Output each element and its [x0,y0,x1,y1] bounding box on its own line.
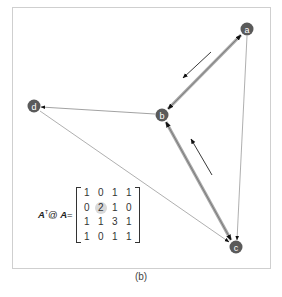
matrix-equation: AT@ A= 1 0 1 1 0 2 1 0 1 1 3 1 1 0 1 1 [38,184,140,246]
edge-a-c [237,36,247,240]
node-c[interactable]: c [230,241,243,254]
node-a-label: a [244,25,249,35]
matrix-cell-highlighted: 2 [94,201,108,216]
node-d[interactable]: d [28,100,41,113]
formula-eq: = [67,210,73,221]
formula-a: A [38,210,45,221]
flow-arrow-c-to-b [191,139,212,175]
matrix-cell: 1 [122,215,136,230]
matrix-cell: 1 [122,186,136,201]
matrix-cell: 1 [80,215,94,230]
edge-b-d [41,107,155,114]
matrix-cell: 1 [122,230,136,245]
node-c-label: c [234,243,239,253]
edge-b-c [166,122,231,240]
matrix-cell: 0 [94,230,108,245]
matrix-cell: 1 [80,230,94,245]
matrix-cell: 1 [94,215,108,230]
figure-caption: (b) [0,271,282,282]
formula-label: AT@ A= [38,209,73,220]
formula-op: @ [48,210,58,221]
matrix-cell: 1 [108,201,122,216]
node-b-label: b [159,111,164,121]
node-d-label: d [31,102,36,112]
flow-arrow-a-to-b [183,52,211,78]
node-a[interactable]: a [241,23,254,36]
matrix-cell: 3 [108,215,122,230]
graph-diagram: a b c d [0,0,282,297]
edge-a-b [168,35,241,109]
matrix-cell: 0 [94,186,108,201]
node-b[interactable]: b [156,109,169,122]
matrix: 1 0 1 1 0 2 1 0 1 1 3 1 1 0 1 1 [76,186,140,244]
highlight-value: 2 [95,202,107,214]
matrix-cell: 0 [80,201,94,216]
matrix-cell: 0 [122,201,136,216]
matrix-cell: 1 [108,186,122,201]
matrix-cell: 1 [80,186,94,201]
matrix-cell: 1 [108,230,122,245]
